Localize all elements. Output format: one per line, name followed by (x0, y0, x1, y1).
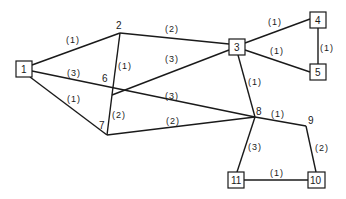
weight-3-4: (1) (268, 17, 282, 27)
node-8-label: 8 (256, 106, 262, 117)
weight-1-8: (3) (67, 68, 81, 78)
weight-2-3: (2) (165, 24, 179, 34)
node-6-label: 6 (102, 73, 108, 84)
weight-6-8: (3) (165, 91, 179, 101)
graph-diagram: 1 2 3 4 5 6 7 8 9 10 11 (1) (3) (1) (2) … (0, 0, 346, 199)
weight-6-3: (3) (165, 54, 179, 64)
node-3-label: 3 (234, 42, 240, 53)
edge-1-8 (32, 71, 255, 117)
node-10-label: 10 (310, 175, 322, 186)
weight-6-7: (2) (112, 110, 126, 120)
weight-9-10: (2) (315, 143, 329, 153)
weight-3-8: (1) (248, 77, 262, 87)
weight-4-5: (1) (320, 43, 334, 53)
weight-1-7: (1) (67, 94, 81, 104)
edge-1-7 (30, 77, 107, 135)
weight-1-2: (1) (66, 35, 80, 45)
node-2-label: 2 (116, 20, 122, 31)
edge-7-8 (107, 117, 255, 135)
node-5-label: 5 (315, 67, 321, 78)
edge-2-3 (120, 33, 229, 44)
weight-8-11: (3) (248, 142, 262, 152)
node-9-label: 9 (308, 115, 314, 126)
node-4-label: 4 (315, 15, 321, 26)
weight-11-10: (1) (270, 168, 284, 178)
weight-7-8: (2) (166, 116, 180, 126)
node-11-label: 11 (231, 175, 242, 186)
node-7-label: 7 (99, 120, 105, 131)
weight-3-5: (1) (270, 46, 284, 56)
weight-8-9: (1) (271, 109, 285, 119)
weight-2-6: (1) (118, 61, 132, 71)
node-1-label: 1 (21, 64, 27, 75)
